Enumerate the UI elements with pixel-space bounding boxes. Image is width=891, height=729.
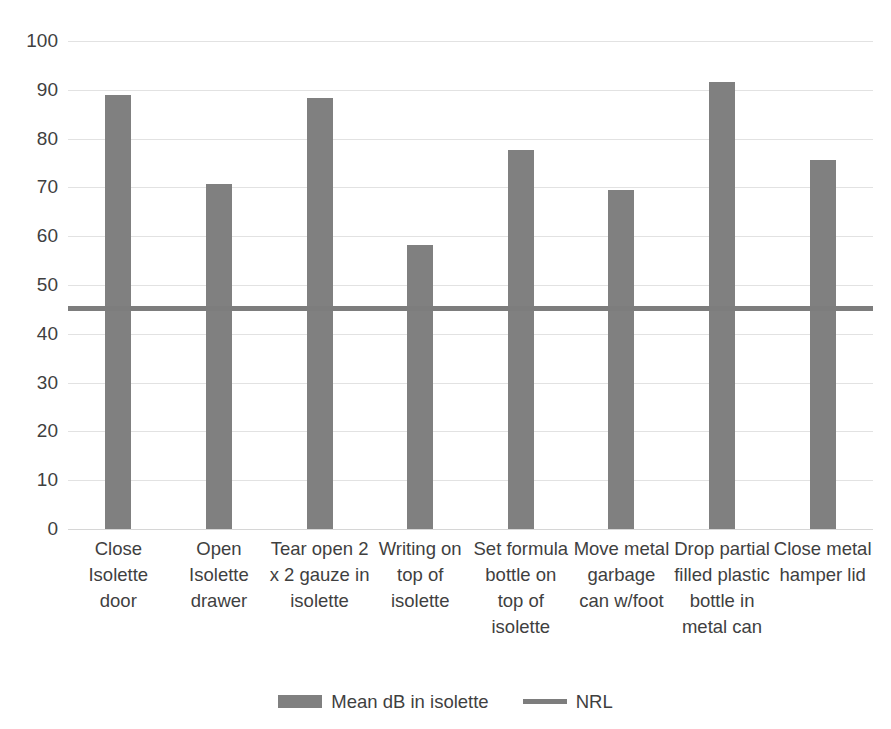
bar[interactable]	[810, 160, 836, 529]
y-axis-tick-label: 90	[0, 80, 58, 99]
x-axis-category-label: Writing on top of isolette	[370, 536, 471, 614]
x-axis-category-label: Drop partial filled plastic bottle in me…	[672, 536, 773, 640]
legend-bar-swatch-icon	[278, 695, 322, 708]
y-axis-tick-label: 30	[0, 373, 58, 392]
bar[interactable]	[608, 190, 634, 529]
y-axis-tick-label: 40	[0, 324, 58, 343]
x-axis-category-label: Open Isolette drawer	[169, 536, 270, 614]
bar-slot	[471, 41, 572, 529]
bar-chart: 1009080706050403020100 Close Isolette do…	[0, 0, 891, 729]
legend-line-swatch-icon	[523, 699, 567, 704]
x-axis-category-label: Set formula bottle on top of isolette	[471, 536, 572, 640]
y-axis-tick-label: 60	[0, 226, 58, 245]
x-axis-category-label: Close Isolette door	[68, 536, 169, 614]
x-axis-category-label: Move metal garbage can w/foot	[571, 536, 672, 614]
y-axis-tick-label: 70	[0, 177, 58, 196]
nrl-threshold-line	[68, 306, 873, 311]
y-axis-tick-label: 50	[0, 275, 58, 294]
bar-slot	[269, 41, 370, 529]
legend-label: Mean dB in isolette	[331, 692, 488, 711]
bar-slot	[672, 41, 773, 529]
bar[interactable]	[709, 82, 735, 529]
bar[interactable]	[407, 245, 433, 529]
bar-slot	[571, 41, 672, 529]
bar-slot	[169, 41, 270, 529]
bar-slot	[68, 41, 169, 529]
bar[interactable]	[307, 98, 333, 529]
bar-slot	[370, 41, 471, 529]
gridline	[68, 529, 873, 530]
bar-slot	[772, 41, 873, 529]
legend-entry[interactable]: Mean dB in isolette	[278, 692, 488, 711]
y-axis-tick-label: 20	[0, 421, 58, 440]
y-axis-tick-label: 80	[0, 129, 58, 148]
y-axis: 1009080706050403020100	[0, 0, 58, 570]
legend-label: NRL	[576, 692, 613, 711]
y-axis-tick-label: 10	[0, 470, 58, 489]
chart-legend: Mean dB in isoletteNRL	[0, 692, 891, 711]
x-axis-category-label: Close metal hamper lid	[772, 536, 873, 588]
bar[interactable]	[206, 184, 232, 529]
x-axis-category-labels: Close Isolette doorOpen Isolette drawerT…	[68, 536, 873, 676]
legend-entry[interactable]: NRL	[523, 692, 613, 711]
y-axis-tick-label: 100	[0, 31, 58, 50]
bar[interactable]	[105, 95, 131, 529]
plot-area	[68, 41, 873, 529]
y-axis-tick-label: 0	[0, 519, 58, 538]
bar[interactable]	[508, 150, 534, 529]
x-axis-category-label: Tear open 2 x 2 gauze in isolette	[269, 536, 370, 614]
